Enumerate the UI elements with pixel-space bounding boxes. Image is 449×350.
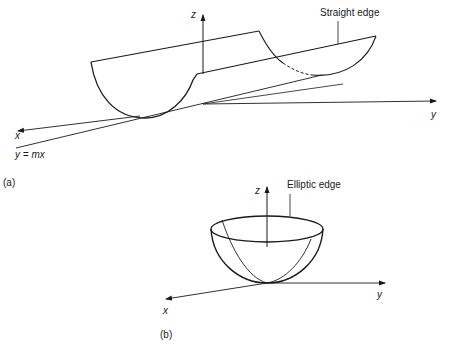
line-equation-label: y = mx	[15, 150, 45, 160]
right-parabola-edge-front	[312, 36, 376, 75]
z-axis-label-a: z	[191, 10, 196, 20]
back-straight-edge	[91, 31, 259, 62]
bowl-meridian-left	[222, 220, 267, 283]
bowl-meridian-right	[267, 239, 311, 283]
panel-b-caption: (b)	[160, 330, 172, 340]
x-axis-a	[18, 116, 140, 131]
panel-a-caption: (a)	[3, 178, 15, 188]
y-axis-a	[203, 101, 436, 104]
elliptic-edge-label: Elliptic edge	[287, 180, 341, 190]
panel-b-figure	[166, 187, 385, 299]
x-axis-label-b: x	[163, 306, 168, 316]
left-parabola-edge	[91, 62, 197, 118]
right-parabola-edge-dashed	[283, 63, 312, 75]
panel-a-figure	[16, 15, 436, 148]
straight-edge-label: Straight edge	[320, 8, 380, 18]
y-axis-label-a: y	[431, 110, 436, 120]
z-axis-label-b: z	[255, 186, 260, 196]
x-axis-label-a: x	[15, 131, 20, 141]
y-axis-label-b: y	[377, 290, 382, 300]
x-axis-b	[166, 283, 267, 299]
